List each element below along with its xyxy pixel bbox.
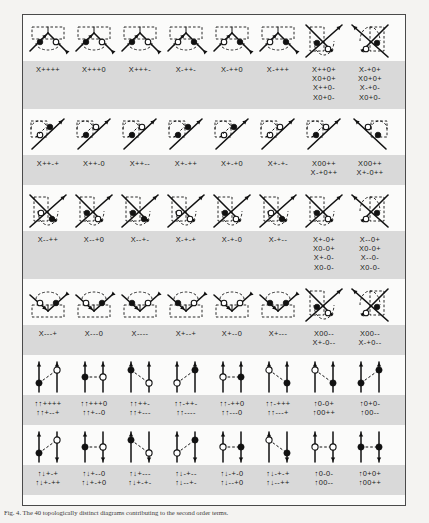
feynman-diagram [71, 359, 117, 395]
diagram-label: X+--- [255, 329, 301, 338]
label-band: X---+X---0X----X+--+X+--0X+---X00--X+-0-… [23, 325, 405, 355]
feynman-diagram [25, 285, 71, 325]
diagram-group: X++++X+++0X+++-X-++-X-++0X-+++X++0+X0+0+… [23, 15, 405, 109]
label-line: X--++ [38, 235, 58, 244]
diagram-label: X++-+ [25, 159, 71, 168]
diagram-label: X--+0 [71, 235, 117, 244]
diagram-label: X-+++ [255, 65, 301, 74]
feynman-diagram [301, 359, 347, 395]
label-line: X-+0-- [358, 338, 381, 347]
label-band: X++++X+++0X+++-X-++-X-++0X-+++X++0+X0+0+… [23, 61, 405, 109]
diagram-label: ↑0+0-↑00-- [347, 399, 393, 417]
feynman-diagram [347, 429, 393, 465]
label-line: X+-0+ [313, 235, 335, 244]
label-line: ↑0-0- [315, 469, 334, 478]
label-line: X0+0- [313, 93, 335, 102]
diagram-label: X--0+X0-0+X--0-X0-0- [347, 235, 393, 272]
label-line: X+-0-- [312, 338, 335, 347]
label-line: X-+++ [267, 65, 289, 74]
diagram-group: ↑↑++++↑↑+--+↑↑+++0↑↑+--0↑↑++-↑↑+---↑↑-++… [23, 355, 405, 425]
diagram-label: X-++- [163, 65, 209, 74]
feynman-diagram [255, 429, 301, 465]
label-line: ↑00-- [315, 478, 334, 487]
diagram-label: X+--0 [209, 329, 255, 338]
diagram-label: X-+-+ [163, 235, 209, 244]
diagram-label: ↑↓+--0↑↓+-+0 [71, 469, 117, 487]
label-line: X-++- [176, 65, 196, 74]
diagram-label: X+-++ [163, 159, 209, 168]
label-line: X+-0- [314, 253, 334, 262]
label-line: X+-+0 [221, 159, 243, 168]
label-line: X+--- [269, 329, 288, 338]
label-line: X++-- [130, 159, 150, 168]
label-line: X-+-+ [176, 235, 196, 244]
label-line: ↑↑+++0 [81, 399, 108, 408]
feynman-diagram [255, 115, 301, 155]
diagram-label: ↑0-0-↑00-- [301, 469, 347, 487]
feynman-diagram [71, 285, 117, 325]
diagram-label: X--+- [117, 235, 163, 244]
feynman-diagram [209, 285, 255, 325]
feynman-diagram [117, 21, 163, 61]
label-line: ↑00++ [359, 478, 382, 487]
feynman-diagram [163, 285, 209, 325]
label-line: X++++ [36, 65, 60, 74]
feynman-diagram [347, 285, 393, 325]
label-line: ↑00-- [361, 408, 380, 417]
feynman-diagram [255, 359, 301, 395]
diagram-label: ↑↑-+++↑↑---+ [255, 399, 301, 417]
figure-caption: Fig. 4. The 40 topologically distinct di… [4, 509, 424, 517]
diagram-row [23, 355, 405, 395]
label-line: X+++- [129, 65, 151, 74]
figure-page: X++++X+++0X+++-X-++-X-++0X-+++X++0+X0+0+… [0, 0, 429, 523]
diagram-label: X+--+ [163, 329, 209, 338]
feynman-diagram [163, 191, 209, 231]
feynman-diagram [209, 191, 255, 231]
label-line: ↑↓-+-0 [220, 469, 243, 478]
label-line: X0-0- [360, 263, 380, 272]
diagram-label: X00--X+-0-- [301, 329, 347, 347]
label-line: X0+0+ [358, 74, 382, 83]
label-line: X+--+ [176, 329, 196, 338]
feynman-diagram [71, 429, 117, 465]
label-line: ↑↓+-+- [128, 478, 151, 487]
label-line: X00++ [358, 159, 382, 168]
label-line: X0+0- [359, 93, 381, 102]
label-line: X--0- [361, 253, 379, 262]
feynman-diagram [25, 429, 71, 465]
label-line: ↑↓--+0 [220, 478, 243, 487]
feynman-diagram [71, 21, 117, 61]
label-line: X-+0+ [359, 65, 381, 74]
diagram-label: X+-0+X0-0+X+-0-X0-0- [301, 235, 347, 272]
feynman-diagram [301, 429, 347, 465]
label-line: X0-0+ [359, 244, 381, 253]
diagram-label: X+++0 [71, 65, 117, 74]
label-line: X++-0 [83, 159, 105, 168]
label-line: ↑↑-++- [174, 399, 197, 408]
label-line: ↑↑-+++ [265, 399, 290, 408]
label-line: ↑0+0+ [359, 469, 382, 478]
label-line: ↑↑---- [176, 408, 196, 417]
diagram-label: ↑↑++++↑↑+--+ [25, 399, 71, 417]
label-band: ↑↓+-+↑↓+-++↑↓+--0↑↓+-+0↑↓+---↑↓+-+-↑↓-+-… [23, 465, 405, 495]
label-band: X--++X--+0X--+-X-+-+X-+-0X-+--X+-0+X0-0+… [23, 231, 405, 279]
label-line: X00++ [312, 159, 336, 168]
diagram-label: X+++- [117, 65, 163, 74]
diagram-label: ↑0-0+↑00++ [301, 399, 347, 417]
label-line: X--+0 [84, 235, 104, 244]
feynman-diagram [117, 285, 163, 325]
feynman-diagram [163, 359, 209, 395]
diagram-row [23, 109, 405, 155]
label-line: ↑00++ [313, 408, 336, 417]
feynman-diagram [347, 191, 393, 231]
diagram-label: X---+ [25, 329, 71, 338]
label-line: ↑↑++- [130, 399, 150, 408]
diagram-row [23, 425, 405, 465]
feynman-diagram [71, 191, 117, 231]
diagram-label: ↑↓-+-0↑↓--+0 [209, 469, 255, 487]
label-line: X++-+ [37, 159, 59, 168]
feynman-diagram [209, 21, 255, 61]
label-line: X00-- [314, 329, 334, 338]
diagram-label: X-+-0 [209, 235, 255, 244]
feynman-diagram [117, 359, 163, 395]
